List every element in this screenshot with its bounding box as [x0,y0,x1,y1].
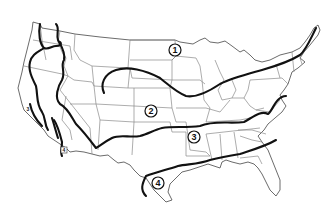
svg-text:4: 4 [155,178,160,188]
svg-text:2: 2 [148,106,153,116]
zone-label-3-california: 3 [27,106,30,112]
svg-text:4: 4 [63,147,66,153]
svg-text:3: 3 [27,106,30,112]
svg-text:3: 3 [191,132,196,142]
zone-label-1: 1 [169,44,181,56]
state-borders [24,24,302,164]
us-zone-map: 1 2 3 4 4 3 [0,0,329,212]
svg-text:1: 1 [172,45,177,55]
zone-label-2: 2 [145,105,157,117]
zone-label-4: 4 [152,177,164,189]
zone-label-4-california: 4 [61,147,67,153]
zone-label-3: 3 [188,131,200,143]
